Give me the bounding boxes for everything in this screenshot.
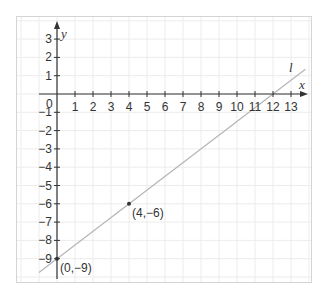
x-tick-label: 1 xyxy=(72,100,79,114)
y-tick-label: −3 xyxy=(38,142,52,156)
point-label: (4,−6) xyxy=(132,206,164,220)
y-axis-label: y xyxy=(59,26,67,41)
y-tick-label: −4 xyxy=(38,160,52,174)
chart-frame xyxy=(17,17,312,283)
y-tick-label: −6 xyxy=(38,197,52,211)
x-tick-label: 3 xyxy=(108,100,115,114)
x-tick-label: 6 xyxy=(162,100,169,114)
y-tick-label: 1 xyxy=(45,69,52,83)
x-tick-label: 2 xyxy=(90,100,97,114)
coordinate-plane-chart: 12345678910111213 321−1−2−3−4−5−6−7−8−9 … xyxy=(0,0,323,291)
x-tick-label: 5 xyxy=(144,100,151,114)
x-tick-label: 9 xyxy=(216,100,223,114)
y-tick-label: 2 xyxy=(45,50,52,64)
x-axis-label: x xyxy=(298,77,305,92)
y-tick-label: −8 xyxy=(38,233,52,247)
x-tick-label: 10 xyxy=(230,100,244,114)
line-l-label: l xyxy=(289,60,293,75)
y-tick-label: 3 xyxy=(45,32,52,46)
y-tick-label: −2 xyxy=(38,124,52,138)
origin-label: 0 xyxy=(46,97,53,111)
x-tick-label: 7 xyxy=(180,100,187,114)
point-label: (0,−9) xyxy=(60,261,92,275)
x-tick-label: 13 xyxy=(284,100,298,114)
x-tick-label: 4 xyxy=(126,100,133,114)
point-marker xyxy=(127,202,131,206)
y-tick-label: −9 xyxy=(38,252,52,266)
x-tick-label: 11 xyxy=(249,100,262,114)
y-tick-label: −5 xyxy=(38,179,52,193)
y-tick-label: −7 xyxy=(38,215,52,229)
x-tick-label: 8 xyxy=(198,100,205,114)
point-marker xyxy=(55,257,59,261)
x-tick-label: 12 xyxy=(266,100,280,114)
